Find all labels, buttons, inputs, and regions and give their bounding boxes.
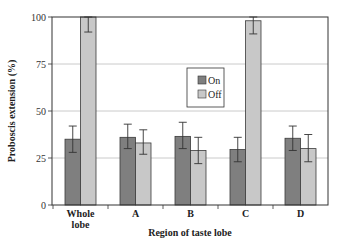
x-category-label: Whole (67, 208, 95, 219)
x-category-label: D (297, 208, 304, 219)
legend-swatch-on (198, 76, 206, 84)
y-tick-label: 75 (36, 59, 46, 70)
bar-off (246, 21, 262, 205)
y-tick-label: 100 (31, 12, 46, 23)
y-tick-label: 50 (36, 106, 46, 117)
bar-off (81, 17, 97, 205)
x-category-label: C (242, 208, 249, 219)
x-axis-title: Region of taste lobe (148, 227, 232, 238)
legend: On Off (187, 68, 224, 107)
y-axis-ticks: 0255075100 (31, 12, 52, 211)
x-category-label: lobe (72, 219, 90, 230)
legend-label-off: Off (208, 89, 222, 100)
legend-swatch-off (198, 90, 206, 98)
x-category-label: A (132, 208, 140, 219)
x-category-label: B (187, 208, 194, 219)
y-tick-label: 0 (41, 200, 46, 211)
y-axis-title: Proboscis extension (%) (6, 60, 18, 163)
legend-label-on: On (208, 75, 220, 86)
legend-box (187, 68, 224, 107)
bar-chart: 0255075100 WholelobeABCD Proboscis exten… (0, 0, 348, 252)
y-tick-label: 25 (36, 153, 46, 164)
